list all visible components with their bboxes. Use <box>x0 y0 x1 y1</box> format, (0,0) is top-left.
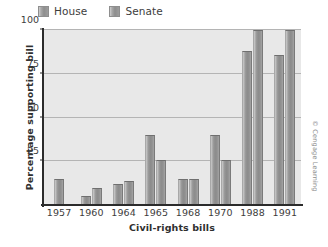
legend-item-senate: Senate <box>109 5 162 17</box>
bar-house-1988 <box>242 51 252 205</box>
bar-house-1970 <box>210 135 220 205</box>
bar-house-1965 <box>145 135 155 205</box>
copyright-credit: © Cengage Learning <box>311 111 319 201</box>
x-tick-label: 1968 <box>172 207 204 218</box>
x-tick-label: 1988 <box>237 207 269 218</box>
bar-senate-1991 <box>285 30 295 205</box>
chart-legend: House Senate <box>38 1 163 21</box>
bar-house-1991 <box>274 55 284 206</box>
bar-group <box>237 30 269 205</box>
bar-series-layer <box>43 30 301 205</box>
bar-group <box>172 30 204 205</box>
bar-house-1964 <box>113 184 123 205</box>
bar-group <box>75 30 107 205</box>
bar-group <box>204 30 236 205</box>
legend-swatch-senate-icon <box>109 6 120 17</box>
bar-group <box>108 30 140 205</box>
legend-swatch-house-icon <box>38 6 49 17</box>
x-tick-label: 1970 <box>204 207 236 218</box>
legend-item-house: House <box>38 5 87 17</box>
bar-senate-1957 <box>54 179 64 205</box>
bar-house-1968 <box>178 179 188 205</box>
y-tick-label: 25 <box>27 145 39 156</box>
x-tick-label: 1957 <box>43 207 75 218</box>
x-tick-label: 1964 <box>108 207 140 218</box>
bar-senate-1965 <box>156 160 166 206</box>
bar-senate-1968 <box>189 179 199 205</box>
x-tick-label: 1965 <box>140 207 172 218</box>
bar-senate-1960 <box>92 188 102 206</box>
bar-group <box>140 30 172 205</box>
bar-senate-1970 <box>221 160 231 206</box>
plot-area: 255075100 <box>43 30 301 205</box>
y-tick-label: 50 <box>27 101 39 112</box>
x-tick-label: 1960 <box>75 207 107 218</box>
legend-label-senate: Senate <box>125 5 162 17</box>
legend-label-house: House <box>54 5 87 17</box>
y-tick-label: 75 <box>27 57 39 68</box>
bar-senate-1964 <box>124 181 134 206</box>
bar-senate-1988 <box>253 30 263 205</box>
x-axis-tick-labels: 19571960196419651968197019881991 <box>43 207 301 218</box>
x-axis-title: Civil-rights bills <box>43 222 301 233</box>
y-tick-label: 100 <box>21 14 39 25</box>
y-axis-line <box>42 28 44 207</box>
x-axis-line <box>41 204 303 206</box>
bar-group <box>43 30 75 205</box>
bar-group <box>269 30 301 205</box>
x-tick-label: 1991 <box>269 207 301 218</box>
